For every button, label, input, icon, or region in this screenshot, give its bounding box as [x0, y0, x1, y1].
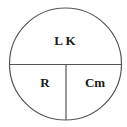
bottom-right-label: Cm [85, 75, 105, 90]
formula-circle-diagram: L K R Cm [0, 0, 127, 127]
top-label: L K [54, 33, 76, 48]
bottom-left-label: R [40, 75, 50, 90]
